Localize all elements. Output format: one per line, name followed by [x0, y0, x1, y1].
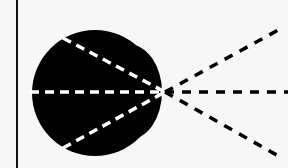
ray-diagram — [0, 0, 288, 168]
